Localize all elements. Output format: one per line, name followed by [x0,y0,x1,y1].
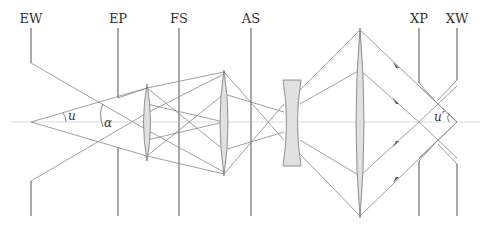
ray-l1-e [147,130,224,172]
arrow-icon [393,62,399,68]
label-fs: FS [170,11,188,26]
ray-c-d [300,154,360,216]
angle-u-prime: u′ [434,110,445,124]
angle-alpha: α [104,116,112,130]
ray-l2-a [224,72,284,140]
ray-ep-top [118,88,147,98]
ray-c-b [300,70,360,104]
angle-u-arc [63,113,66,122]
ray-xp-top [419,83,436,102]
arrow-icon [393,141,399,147]
ray-l2-d [224,132,284,150]
ray-ew-bottom [31,113,147,181]
angle-u: u [68,109,76,123]
label-xw: XW [446,11,469,26]
ray-exit-1 [360,30,457,158]
angle-alpha-arc [101,104,104,127]
ray-xw-top [438,80,457,100]
ray-exit-4 [360,86,457,216]
ray-xp-bottom [419,142,436,161]
optical-diagram: EW EP FS AS XP XW [0,0,487,232]
ray-ew-top [31,63,147,130]
ray-obj-upper [31,88,147,122]
ray-c-a [300,30,360,90]
lens-2 [220,70,228,176]
ray-l2-b [224,104,284,174]
ray-obj-lower [31,122,147,156]
label-ew: EW [20,11,43,26]
arrow-icon [393,177,399,183]
lens-concave [283,80,301,166]
lens-1 [144,84,151,161]
ray-l2-c [224,94,284,112]
ray-l1-d [147,156,224,174]
ray-xw-bottom [438,144,457,164]
label-as: AS [241,11,260,26]
label-xp: XP [410,11,428,26]
ray-exit-3 [360,86,457,176]
label-ep: EP [109,11,127,26]
lens-big [356,28,364,218]
ray-c-c [300,140,360,176]
